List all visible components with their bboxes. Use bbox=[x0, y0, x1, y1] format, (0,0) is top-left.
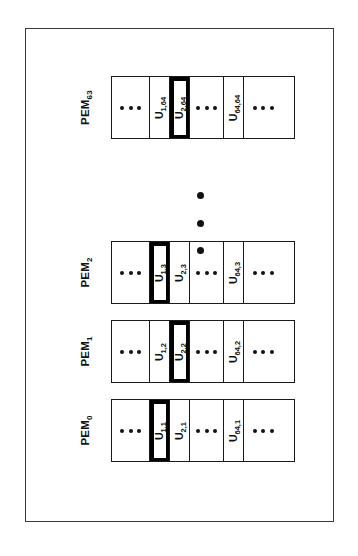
horizontal-ellipsis-icon bbox=[253, 271, 274, 275]
ellipsis-cell bbox=[244, 77, 282, 138]
memory-cell-label-subscript: 1,2 bbox=[159, 342, 168, 352]
memory-cell[interactable]: U1,2 bbox=[150, 321, 170, 382]
horizontal-ellipsis-icon bbox=[253, 106, 274, 110]
memory-cell[interactable]: U64,2 bbox=[224, 321, 244, 382]
memory-cell-label-subscript: 64,2 bbox=[233, 340, 242, 355]
memory-cell-highlighted[interactable]: U1,1 bbox=[150, 400, 170, 461]
memory-cell[interactable]: U64,1 bbox=[224, 400, 244, 461]
ellipsis-cell bbox=[244, 321, 282, 382]
memory-cell-highlighted[interactable]: U2,2 bbox=[170, 321, 190, 382]
pem-bank-label-subscript: 1 bbox=[85, 336, 94, 341]
horizontal-ellipsis-icon bbox=[196, 429, 217, 433]
horizontal-ellipsis-icon bbox=[120, 350, 141, 354]
pem-bank-1: PEM1U1,2U2,2U64,2 bbox=[111, 320, 295, 383]
vertical-ellipsis-icon bbox=[193, 192, 207, 254]
pem-bank-0: PEM0U1,1U2,1U64,1 bbox=[111, 399, 295, 462]
memory-cell[interactable]: U64,64 bbox=[224, 77, 244, 138]
memory-cell-inner: U1,1 bbox=[153, 403, 167, 459]
pem-bank-label-subscript: 2 bbox=[85, 257, 94, 262]
ellipsis-dot bbox=[197, 247, 204, 254]
ellipsis-dot bbox=[197, 220, 204, 227]
horizontal-ellipsis-icon bbox=[253, 350, 274, 354]
memory-cell-label-subscript: 64,1 bbox=[233, 419, 242, 434]
horizontal-ellipsis-icon bbox=[253, 429, 274, 433]
ellipsis-cell bbox=[112, 77, 150, 138]
memory-cell-label: U2,1 bbox=[174, 421, 186, 439]
pem-bank-label: PEM63 bbox=[77, 76, 93, 139]
ellipsis-cell bbox=[112, 321, 150, 382]
memory-cell-label: U1,64 bbox=[154, 96, 166, 118]
ellipsis-cell bbox=[244, 242, 282, 303]
memory-cell[interactable]: U2,3 bbox=[170, 242, 190, 303]
memory-cell-label-subscript: 2,64 bbox=[179, 96, 188, 111]
horizontal-ellipsis-icon bbox=[196, 350, 217, 354]
memory-cell-label-subscript: 2,2 bbox=[179, 342, 188, 352]
ellipsis-cell bbox=[112, 242, 150, 303]
horizontal-ellipsis-icon bbox=[196, 106, 217, 110]
memory-cell-label: U64,2 bbox=[228, 340, 240, 362]
memory-cell-inner: U1,3 bbox=[153, 245, 167, 301]
horizontal-ellipsis-icon bbox=[120, 271, 141, 275]
memory-cell-label: U1,3 bbox=[154, 263, 166, 281]
memory-cell-label: U2,3 bbox=[174, 263, 186, 281]
figure-outer-frame: PEM63U1,64U2,64U64,64PEM2U1,3U2,3U64,3PE… bbox=[25, 28, 334, 522]
memory-cell-label: U64,64 bbox=[228, 94, 240, 120]
ellipsis-cell bbox=[190, 400, 224, 461]
ellipsis-cell bbox=[190, 77, 224, 138]
memory-cell[interactable]: U64,3 bbox=[224, 242, 244, 303]
memory-cell-label-subscript: 1,64 bbox=[159, 96, 168, 111]
memory-cell-label: U64,1 bbox=[228, 419, 240, 441]
pem-bank-label: PEM0 bbox=[77, 399, 93, 462]
pem-bank-label: PEM1 bbox=[77, 320, 93, 383]
memory-cell-label: U2,64 bbox=[174, 96, 186, 118]
memory-cell-label-subscript: 1,3 bbox=[159, 263, 168, 273]
pem-bank-label-subscript: 0 bbox=[85, 415, 94, 420]
ellipsis-cell bbox=[112, 400, 150, 461]
memory-cell-highlighted[interactable]: U2,64 bbox=[170, 77, 190, 138]
memory-cell-label-subscript: 64,64 bbox=[233, 94, 242, 113]
memory-cell-strip: U1,1U2,1U64,1 bbox=[111, 399, 295, 462]
memory-cell[interactable]: U1,64 bbox=[150, 77, 170, 138]
memory-cell-label: U1,1 bbox=[154, 421, 166, 439]
memory-cell-inner: U2,2 bbox=[173, 324, 187, 380]
memory-cell-label: U64,3 bbox=[228, 261, 240, 283]
horizontal-ellipsis-icon bbox=[196, 271, 217, 275]
ellipsis-cell bbox=[190, 321, 224, 382]
memory-cell-strip: U1,2U2,2U64,2 bbox=[111, 320, 295, 383]
memory-cell-label-subscript: 2,3 bbox=[179, 263, 188, 273]
pem-bank-63: PEM63U1,64U2,64U64,64 bbox=[111, 76, 295, 139]
memory-cell-strip: U1,64U2,64U64,64 bbox=[111, 76, 295, 139]
memory-cell-label: U2,2 bbox=[174, 342, 186, 360]
memory-cell-label: U1,2 bbox=[154, 342, 166, 360]
memory-cell-label-subscript: 1,1 bbox=[159, 421, 168, 431]
horizontal-ellipsis-icon bbox=[120, 106, 141, 110]
pem-bank-label: PEM2 bbox=[77, 241, 93, 304]
memory-cell-label-subscript: 2,1 bbox=[179, 421, 188, 431]
horizontal-ellipsis-icon bbox=[120, 429, 141, 433]
memory-cell-highlighted[interactable]: U1,3 bbox=[150, 242, 170, 303]
memory-cell[interactable]: U2,1 bbox=[170, 400, 190, 461]
ellipsis-dot bbox=[197, 192, 204, 199]
ellipsis-cell bbox=[244, 400, 282, 461]
pem-bank-label-subscript: 63 bbox=[85, 90, 94, 99]
memory-cell-inner: U2,64 bbox=[173, 80, 187, 136]
memory-cell-label-subscript: 64,3 bbox=[233, 261, 242, 276]
